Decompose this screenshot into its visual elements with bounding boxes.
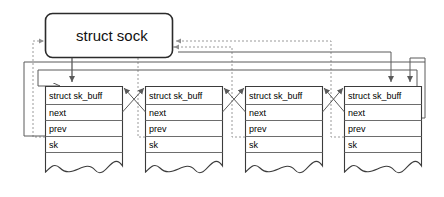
sk-buff-field-next-2: next [149, 109, 166, 118]
sk-buff-field-prev-3: prev [249, 125, 267, 134]
next-prev-cross-1-2 [123, 88, 146, 112]
diagram-canvas: struct sock struct sk_buff next prev sk … [0, 0, 444, 197]
sk-buff-header-1: struct sk_buff [49, 92, 102, 101]
next-prev-cross-2-3 [223, 88, 246, 112]
sk-buff-field-prev-2: prev [149, 125, 167, 134]
sk-buff-field-sk-3: sk [249, 141, 258, 150]
next-prev-cross-3-4 [323, 88, 345, 112]
tail-rail-a [172, 52, 391, 82]
list-rail-inner [38, 70, 417, 86]
sk-buff-field-next-3: next [249, 109, 266, 118]
sk-buff-field-next-1: next [49, 109, 66, 118]
sk-buff-header-2: struct sk_buff [149, 92, 202, 101]
sk-buff-field-next-4: next [348, 109, 365, 118]
sk-backpointer-1 [33, 41, 45, 137]
sk-buff-field-prev-1: prev [49, 125, 67, 134]
sk-buff-field-sk-1: sk [49, 141, 58, 150]
sk-buff-field-sk-4: sk [348, 141, 357, 150]
sk-buff-header-3: struct sk_buff [249, 92, 302, 101]
sk-buff-field-sk-2: sk [149, 141, 158, 150]
sk-buff-header-4: struct sk_buff [348, 92, 401, 101]
sk-buff-field-prev-4: prev [348, 125, 366, 134]
struct-sock-label: struct sock [76, 28, 148, 43]
